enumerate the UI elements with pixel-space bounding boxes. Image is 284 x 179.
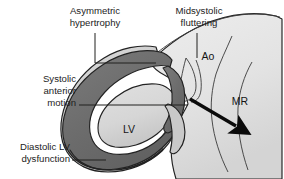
callout-diastolic-lv-dysfunction-line1: Diastolic LV <box>20 141 71 152</box>
callout-asymmetric-hypertrophy: Asymmetric hypertrophy <box>70 5 121 28</box>
heart-diagram-canvas: Asymmetric hypertrophy Midsystolic flutt… <box>0 0 284 179</box>
callout-systolic-anterior-motion-line2: anterior <box>43 85 76 96</box>
callout-systolic-anterior-motion-line3: motion <box>47 97 76 108</box>
callout-systolic-anterior-motion: Systolic anterior motion <box>43 73 77 108</box>
callout-diastolic-lv-dysfunction: Diastolic LV dysfunction <box>20 141 71 164</box>
callout-asymmetric-hypertrophy-line1: Asymmetric <box>70 5 120 16</box>
label-aorta: Ao <box>202 50 215 62</box>
callout-midsystolic-fluttering-line2: fluttering <box>181 17 218 28</box>
label-mitral-regurgitation: MR <box>232 95 249 107</box>
label-left-ventricle: LV <box>123 123 135 135</box>
callout-asymmetric-hypertrophy-line2: hypertrophy <box>70 17 121 28</box>
callout-midsystolic-fluttering: Midsystolic fluttering <box>176 5 223 28</box>
myocardium-group <box>61 46 185 172</box>
hcm-diagram-figure: Asymmetric hypertrophy Midsystolic flutt… <box>0 0 284 179</box>
callout-diastolic-lv-dysfunction-line2: dysfunction <box>21 153 70 164</box>
callout-systolic-anterior-motion-line1: Systolic <box>43 73 76 84</box>
callout-midsystolic-fluttering-line1: Midsystolic <box>176 5 223 16</box>
